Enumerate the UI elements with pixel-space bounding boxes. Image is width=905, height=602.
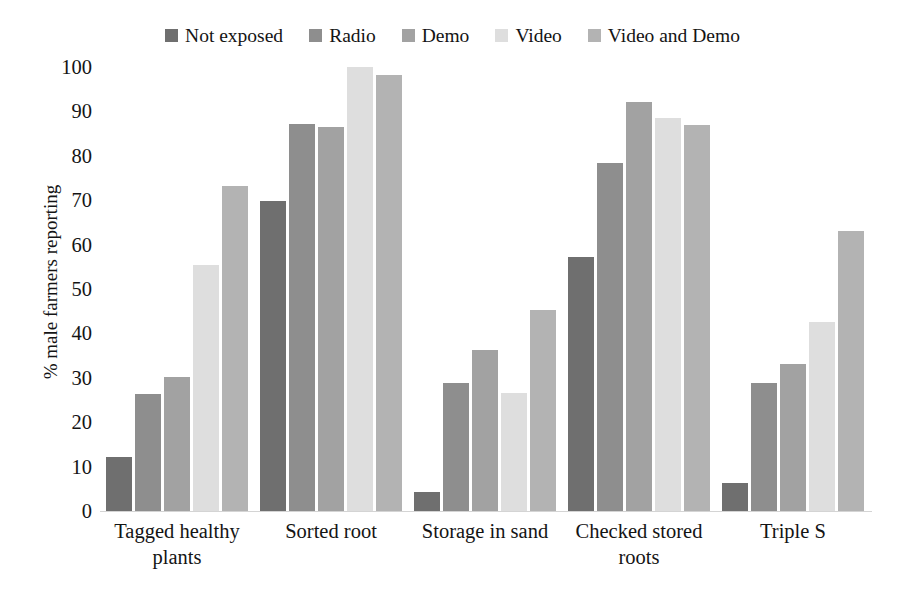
bar[interactable] [222, 186, 248, 511]
x-axis-category-line: Tagged healthy [100, 519, 254, 545]
bar[interactable] [722, 483, 748, 511]
bar-chart: Not exposedRadioDemoVideoVideo and Demo … [0, 0, 905, 602]
bar-group [254, 67, 408, 511]
x-axis-category-line: roots [562, 545, 716, 571]
bar[interactable] [684, 125, 710, 511]
bar[interactable] [809, 322, 835, 511]
legend-label: Not exposed [185, 26, 283, 46]
bar-group [716, 67, 870, 511]
plot-area [100, 67, 870, 511]
y-axis-tick-label: 0 [46, 501, 92, 522]
legend-label: Video and Demo [608, 26, 740, 46]
bar[interactable] [376, 75, 402, 511]
x-axis-category-label: Tagged healthyplants [100, 519, 254, 570]
y-axis-title-wrapper: % male farmers reporting [30, 0, 31, 602]
bar[interactable] [135, 394, 161, 511]
bar[interactable] [106, 457, 132, 511]
legend-label: Radio [329, 26, 376, 46]
bar[interactable] [568, 257, 594, 511]
y-axis-title: % male farmers reporting [40, 122, 62, 442]
legend-swatch-icon [309, 29, 322, 42]
x-axis-category-line: Triple S [716, 519, 870, 545]
bar[interactable] [318, 127, 344, 512]
legend-swatch-icon [495, 29, 508, 42]
bar[interactable] [626, 102, 652, 511]
bar[interactable] [780, 364, 806, 511]
bar[interactable] [414, 492, 440, 511]
bar-group [100, 67, 254, 511]
bar-group [562, 67, 716, 511]
bar[interactable] [289, 124, 315, 511]
legend-swatch-icon [402, 29, 415, 42]
legend-label: Video [515, 26, 561, 46]
x-axis-category-line: Storage in sand [408, 519, 562, 545]
bar[interactable] [472, 350, 498, 511]
x-axis-category-line: plants [100, 545, 254, 571]
x-axis-category-label: Checked storedroots [562, 519, 716, 570]
bar[interactable] [838, 231, 864, 511]
x-axis-line [100, 511, 872, 512]
legend-item[interactable]: Demo [402, 26, 470, 46]
bar[interactable] [164, 377, 190, 511]
chart-legend: Not exposedRadioDemoVideoVideo and Demo [0, 26, 905, 46]
legend-label: Demo [422, 26, 470, 46]
x-axis-category-line: Checked stored [562, 519, 716, 545]
bar[interactable] [443, 383, 469, 511]
bar[interactable] [501, 393, 527, 511]
bar[interactable] [193, 265, 219, 511]
legend-item[interactable]: Radio [309, 26, 376, 46]
x-axis-category-label: Sorted root [254, 519, 408, 545]
x-axis-labels: Tagged healthyplantsSorted rootStorage i… [100, 519, 870, 589]
bar-group [408, 67, 562, 511]
bar[interactable] [260, 201, 286, 511]
legend-swatch-icon [588, 29, 601, 42]
bar[interactable] [655, 118, 681, 511]
y-axis-tick-label: 10 [46, 456, 92, 477]
x-axis-category-line: Sorted root [254, 519, 408, 545]
legend-swatch-icon [165, 29, 178, 42]
bar[interactable] [530, 310, 556, 511]
bar[interactable] [751, 383, 777, 511]
legend-item[interactable]: Video [495, 26, 561, 46]
bar[interactable] [347, 67, 373, 511]
bar[interactable] [597, 163, 623, 511]
y-axis-tick-label: 90 [46, 101, 92, 122]
x-axis-category-label: Triple S [716, 519, 870, 545]
legend-item[interactable]: Video and Demo [588, 26, 740, 46]
legend-item[interactable]: Not exposed [165, 26, 283, 46]
x-axis-category-label: Storage in sand [408, 519, 562, 545]
y-axis-tick-label: 100 [46, 57, 92, 78]
